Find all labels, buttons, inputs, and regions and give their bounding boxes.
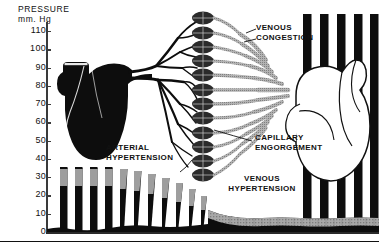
venous-pressure-band	[208, 210, 379, 232]
pressure-diagram: PRESSURE mm. Hg 010203040506070809010011…	[0, 0, 379, 242]
annotation-venous-hypertension: VENOUS HYPERTENSION	[216, 174, 308, 193]
right-heart-outline	[286, 60, 370, 181]
pressure-pulse-columns	[47, 167, 208, 232]
x-axis-baseline	[46, 232, 379, 234]
annotation-arterial-hypertension: ARTERIAL HYPERTENSION	[106, 143, 173, 162]
annotation-capillary-engorgement: CAPILLARY ENGORGEMENT	[255, 133, 322, 152]
annotation-venous-congestion: VENOUS CONGESTION	[256, 23, 313, 42]
